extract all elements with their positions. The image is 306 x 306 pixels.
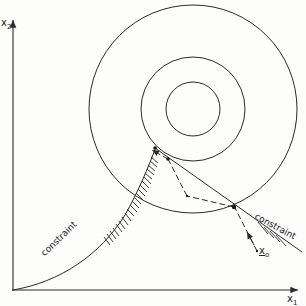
diagram-svg [0, 0, 306, 306]
iteration-points [153, 146, 258, 252]
point-outer-circle [232, 205, 236, 209]
diagram-canvas: x2 x1 constraint constraint xo [0, 0, 306, 306]
right-constraint [155, 148, 302, 252]
start-label-sub: o [265, 251, 269, 259]
left-constraint [13, 147, 158, 290]
path-segment-3 [168, 159, 187, 196]
contour-inner [166, 82, 220, 136]
axes [12, 20, 298, 291]
start-point-label: xo [259, 246, 269, 259]
search-path [152, 150, 257, 251]
left-constraint-hatching [104, 157, 158, 245]
point-vertex [186, 195, 188, 197]
point-start [256, 250, 258, 252]
x2-label-sub: 2 [7, 23, 11, 31]
direction-arrow [247, 232, 254, 245]
point-middle [166, 157, 170, 161]
x1-axis-label: x1 [287, 294, 297, 306]
x2-axis-label: x2 [1, 18, 11, 31]
contour-middle [141, 57, 245, 161]
path-segment-2 [187, 196, 234, 207]
point-top [153, 146, 157, 150]
x1-label-sub: 1 [293, 299, 297, 306]
contour-outer [89, 5, 297, 213]
objective-contours [89, 5, 297, 213]
